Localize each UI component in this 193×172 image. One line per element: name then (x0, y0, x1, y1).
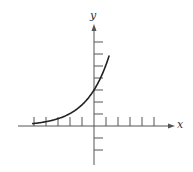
y-axis-arrow-icon (92, 24, 97, 31)
exponential-graph (0, 0, 193, 172)
x-axis-label: x (177, 119, 183, 130)
y-axis-label: y (90, 10, 96, 21)
y-axis (92, 24, 104, 165)
x-axis-arrow-icon (168, 124, 175, 129)
y-axis-ticks (94, 42, 103, 150)
